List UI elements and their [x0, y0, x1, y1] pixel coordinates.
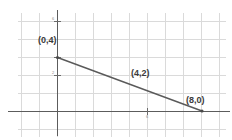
point-0-4 [56, 56, 59, 59]
y-tick-label-6: 6 [52, 17, 54, 21]
graph-figure: 6 2 6 (0,4) (4,2) (8,0) [0, 0, 232, 140]
point-8-0 [200, 109, 203, 112]
coordinate-plane [0, 0, 232, 140]
y-tick-label-2: 2 [52, 71, 54, 75]
x-tick-label-6: 6 [146, 115, 148, 119]
point-label-0-4: (0,4) [38, 36, 57, 45]
point-label-8-0: (8,0) [186, 96, 205, 105]
point-label-4-2: (4,2) [131, 69, 150, 78]
